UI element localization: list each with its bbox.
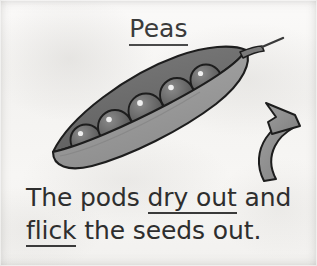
pod-stem (240, 38, 283, 58)
caption-line-1-underlined: dry out (148, 183, 237, 214)
caption-line-1-before: The pods (26, 183, 148, 212)
caption-line-2-after: the seeds out. (76, 216, 261, 245)
caption-text: The pods dry out and flick the seeds out… (26, 181, 298, 247)
worksheet-page: Peas (0, 0, 317, 266)
caption-line-1: The pods dry out and (26, 181, 298, 214)
caption-line-1-after: and (237, 183, 292, 212)
caption-line-2-underlined: flick (26, 216, 76, 247)
caption-line-2: flick the seeds out. (26, 214, 298, 247)
curved-arrow-icon (259, 103, 300, 181)
